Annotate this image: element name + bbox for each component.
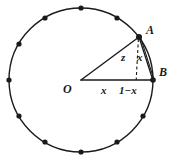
circumference-dot [114, 15, 119, 20]
circumference-dot [42, 139, 47, 144]
radius-oa-line [81, 37, 139, 80]
point-a-dot [136, 34, 142, 40]
label-segment-ab: x [137, 52, 143, 63]
label-segment-fb: 1−x [119, 85, 137, 96]
circumference-dot [16, 41, 21, 46]
label-origin-o: O [63, 83, 72, 95]
geometry-figure: A B O x 1−x z x [0, 0, 178, 158]
label-point-b: B [159, 66, 167, 78]
circumference-dot [16, 113, 21, 118]
circumference-dot [42, 15, 47, 20]
label-point-a: A [146, 24, 154, 36]
point-b-dot [150, 77, 156, 83]
circumference-dot [78, 5, 83, 10]
circumference-dot [114, 139, 119, 144]
circumference-dot [6, 77, 11, 82]
label-segment-af: z [121, 52, 125, 63]
label-segment-of: x [101, 85, 107, 96]
circumference-dot [140, 113, 145, 118]
circumference-dot [78, 149, 83, 154]
